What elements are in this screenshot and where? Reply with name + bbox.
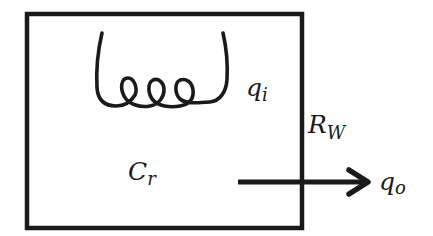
thermal-diagram: qi RW Cr qo	[0, 0, 433, 236]
room-box	[27, 14, 302, 228]
room-capacitance-label: Cr	[128, 157, 157, 189]
heat-input-label: qi	[246, 73, 268, 105]
heater-coil-icon	[97, 33, 228, 107]
wall-resistance-label: RW	[307, 110, 347, 143]
heat-output-label: qo	[379, 167, 406, 198]
